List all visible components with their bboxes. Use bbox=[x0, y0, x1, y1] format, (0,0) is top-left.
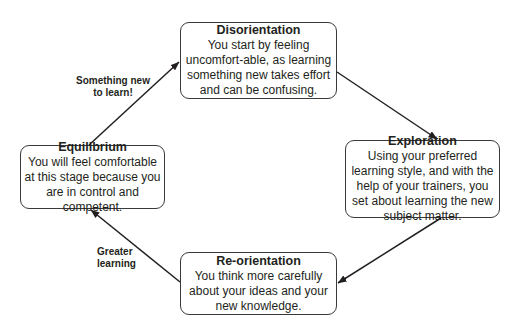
stage-description: You will feel comfortable at this stage … bbox=[24, 155, 162, 215]
stage-description: You think more carefully about your idea… bbox=[184, 269, 334, 314]
edge-label-something-new: Something new to learn! bbox=[74, 75, 152, 98]
learning-cycle-diagram: Disorientation You start by feeling unco… bbox=[0, 0, 523, 336]
edge-label-line: to learn! bbox=[74, 87, 152, 99]
stage-exploration: Exploration Using your preferred learnin… bbox=[345, 140, 500, 218]
edge-label-line: Greater bbox=[97, 246, 147, 258]
stage-title: Exploration bbox=[388, 134, 457, 149]
arrow-disorientation-to-exploration bbox=[337, 72, 437, 139]
edge-label-line: Something new bbox=[74, 75, 152, 87]
stage-disorientation: Disorientation You start by feeling unco… bbox=[180, 22, 337, 99]
arrow-exploration-to-reorientation bbox=[338, 218, 441, 283]
stage-description: You start by feeling uncomfort-able, as … bbox=[185, 38, 333, 98]
stage-equilibrium: Equilibrium You will feel comfortable at… bbox=[20, 145, 165, 209]
stage-title: Re-orientation bbox=[216, 254, 301, 269]
edge-label-line: learning bbox=[97, 258, 147, 270]
stage-reorientation: Re-orientation You think more carefully … bbox=[180, 252, 337, 315]
stage-title: Equilibrium bbox=[58, 140, 127, 155]
stage-description: Using your preferred learning style, and… bbox=[350, 149, 496, 224]
stage-title: Disorientation bbox=[216, 23, 300, 38]
edge-label-greater-learning: Greater learning bbox=[97, 246, 147, 269]
